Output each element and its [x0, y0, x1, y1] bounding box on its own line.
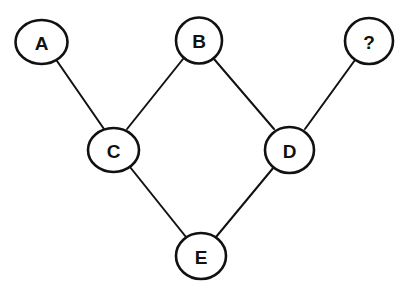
edge-d-e [216, 167, 274, 237]
node-e: E [176, 233, 226, 279]
node-c-label: C [107, 141, 121, 162]
node-a: A [16, 20, 68, 64]
node-unknown-label: ? [363, 32, 375, 53]
nodes: A B ? C D E [16, 18, 394, 280]
node-e-label: E [195, 247, 208, 268]
node-a-label: A [35, 33, 49, 54]
edge-unknown-d [305, 60, 355, 129]
node-c: C [88, 128, 139, 172]
node-b: B [176, 18, 222, 64]
edge-a-c [57, 61, 104, 129]
edge-c-e [130, 167, 186, 237]
edge-b-d [214, 59, 274, 129]
node-b-label: B [192, 31, 206, 52]
node-d: D [265, 127, 314, 173]
edge-b-c [127, 59, 183, 129]
node-unknown: ? [345, 18, 393, 64]
graph-diagram: A B ? C D E [0, 0, 409, 293]
node-d-label: D [283, 141, 297, 162]
